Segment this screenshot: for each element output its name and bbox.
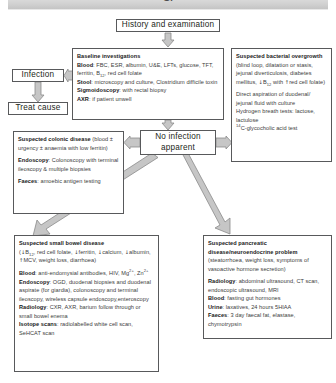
arrow-no-infection-to-colonic	[124, 136, 141, 149]
node-history-and-examination[interactable]: History and examination	[116, 19, 220, 32]
bacterial-heading: Suspected bacterial overgrowth (blind lo…	[236, 52, 327, 86]
diagram-canvas: GI History and examination	[0, 0, 336, 383]
arrow-no-infection-to-pancreas	[178, 152, 248, 238]
colonic-heading: Suspected colonic disease (blood ± urgen…	[18, 135, 119, 152]
small-bowel-line-isotope: Isotope scans: radiolabelled white cell …	[19, 320, 154, 337]
baseline-line-stool: Stool: microscopy and culture, Clostridi…	[77, 78, 219, 87]
header-divider	[8, 9, 328, 10]
small-bowel-line-endoscopy: Endoscopy: OGD, duodenal biopsies and du…	[19, 278, 154, 304]
small-bowel-line-blood: Blood: anti-endomysial antibodies, HIV, …	[19, 269, 154, 278]
bacterial-body-breath-tests: Hydrogen breath tests: lactose, lactulos…	[236, 107, 327, 124]
baseline-line-axr: AXR: if patient unwell	[77, 95, 219, 104]
pancreas-line-blood: Blood: fasting gut hormones	[208, 294, 327, 303]
node-history-label: History and examination	[122, 19, 214, 31]
node-no-infection-apparent[interactable]: No infection apparent	[140, 130, 216, 155]
bacterial-body-aspiration: Direct aspiration of duodenal/ jejunal f…	[236, 90, 327, 107]
pancreas-heading: Suspected pancreatic disease/neuroendocr…	[208, 239, 327, 273]
node-treat-cause-label: Treat cause	[15, 102, 60, 114]
node-suspected-bacterial-overgrowth[interactable]: Suspected bacterial overgrowth (blind lo…	[231, 48, 332, 162]
arrow-no-infection-to-bacterial	[216, 136, 232, 149]
pancreas-line-urine: Urine: laxatives, 24 hours 5HIAA	[208, 303, 327, 312]
colonic-line-endoscopy: Endoscopy: Colonoscopy with terminal ile…	[18, 156, 119, 173]
page-header-bar: GI	[8, 0, 328, 9]
small-bowel-line-radiology: Radiology: CXR, AXR, barium follow throu…	[19, 303, 154, 320]
baseline-line-sigmoidoscopy: Sigmoidoscopy: with rectal biopsy	[77, 86, 219, 95]
small-bowel-heading-tail: (↓B12, red cell folate, ↓ferritin, ↓calc…	[19, 248, 154, 266]
page-header-title: GI	[8, 0, 328, 3]
small-bowel-heading: Suspected small bowel disease	[19, 239, 154, 248]
node-baseline-investigations[interactable]: Baseline investigations Blood: FBC, ESR,…	[72, 48, 224, 120]
baseline-line-blood: Blood: FBC, ESR, albumin, U&E, LFTs, glu…	[77, 61, 219, 78]
colonic-line-faeces: Faeces: amoebic antigen testing	[18, 177, 119, 186]
node-suspected-small-bowel-disease[interactable]: Suspected small bowel disease (↓B12, red…	[14, 235, 159, 372]
node-infection[interactable]: Infection	[12, 69, 64, 82]
node-no-infection-label: No infection apparent	[141, 132, 215, 153]
node-suspected-pancreatic-disease[interactable]: Suspected pancreatic disease/neuroendocr…	[203, 235, 332, 339]
pancreas-line-radiology: Radiology: abdominal ultrasound, CT scan…	[208, 277, 327, 294]
arrow-infection-to-treat-cause	[31, 82, 45, 103]
node-infection-label: Infection	[22, 69, 55, 81]
node-treat-cause[interactable]: Treat cause	[8, 102, 68, 115]
baseline-heading: Baseline investigations	[77, 52, 219, 61]
arrow-history-to-baseline	[161, 33, 175, 48]
pancreas-line-faeces: Faeces: 3 day faecal fat, elastase, chym…	[208, 311, 327, 328]
bacterial-body-glycocholic: 14C-glycocholic acid test	[236, 124, 327, 133]
node-suspected-colonic-disease[interactable]: Suspected colonic disease (blood ± urgen…	[13, 131, 124, 214]
